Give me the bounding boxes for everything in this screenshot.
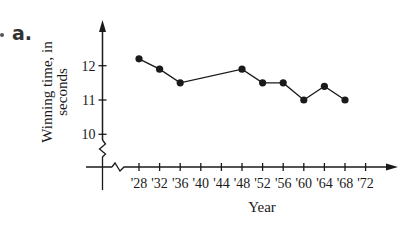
x-tick-label: '44 xyxy=(213,176,230,191)
y-tick-label: 11 xyxy=(82,93,95,108)
x-tick-label: '60 xyxy=(296,176,313,191)
x-tick-label: '52 xyxy=(254,176,271,191)
y-tick-label: 10 xyxy=(82,127,96,142)
x-tick-label: '32 xyxy=(151,176,168,191)
y-tick-label: 12 xyxy=(82,59,96,74)
data-point-marker xyxy=(238,66,245,73)
x-axis-break-icon xyxy=(112,163,126,171)
y-axis-arrow-icon xyxy=(99,20,106,32)
x-tick-label: '68 xyxy=(337,176,354,191)
x-tick-label: '36 xyxy=(172,176,189,191)
x-tick-label: '56 xyxy=(275,176,292,191)
data-point-marker xyxy=(321,83,328,90)
x-tick-label: '72 xyxy=(357,176,374,191)
x-tick-label: '48 xyxy=(234,176,251,191)
data-point-marker xyxy=(259,79,266,86)
data-point-marker xyxy=(135,55,142,62)
x-tick-label: '40 xyxy=(193,176,210,191)
line-chart: 101112 '28'32'36'40'44'48'52'56'60'64'68… xyxy=(0,0,410,228)
x-tick-label: '64 xyxy=(316,176,333,191)
data-point-marker xyxy=(280,79,287,86)
y-axis-break-icon xyxy=(100,140,106,190)
x-axis-title: Year xyxy=(248,199,276,215)
y-axis-title-line: Winning time, in xyxy=(39,41,55,143)
data-series xyxy=(135,55,348,103)
x-tick-label: '28 xyxy=(131,176,148,191)
series-line xyxy=(139,59,345,100)
data-point-marker xyxy=(300,96,307,103)
data-point-marker xyxy=(341,96,348,103)
y-axis-title: Winning time, inseconds xyxy=(39,41,70,143)
data-point-marker xyxy=(156,66,163,73)
y-axis-title-line: seconds xyxy=(54,68,70,116)
data-point-marker xyxy=(177,79,184,86)
x-axis-arrow-icon xyxy=(386,164,398,171)
